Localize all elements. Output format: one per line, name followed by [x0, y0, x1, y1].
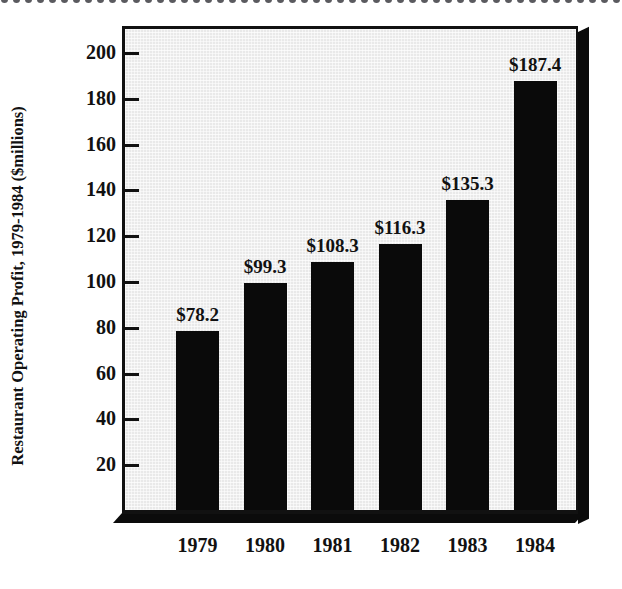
y-axis-title: Restaurant Operating Profit, 1979-1984 (…: [8, 36, 28, 536]
y-axis-tick-mark: [125, 235, 139, 238]
border-dot: [25, 0, 32, 3]
border-dot: [397, 0, 404, 3]
border-dot: [445, 0, 452, 3]
y-axis-tick-label: 180: [56, 88, 116, 108]
y-axis-tick-mark: [125, 281, 139, 284]
bar: [446, 200, 489, 510]
y-axis-tick-mark: [125, 98, 139, 101]
border-dot: [577, 0, 584, 3]
border-dot: [37, 0, 44, 3]
border-dot: [313, 0, 320, 3]
plot-area: [122, 26, 578, 514]
bar: [176, 331, 219, 510]
y-axis-tick-mark: [125, 144, 139, 147]
border-dot: [193, 0, 200, 3]
y-axis-tick-label: 60: [56, 363, 116, 383]
dotted-border: [0, 0, 622, 8]
y-axis-tick-mark: [125, 373, 139, 376]
y-axis-tick-label: 200: [56, 42, 116, 62]
border-dot: [421, 0, 428, 3]
border-dot: [109, 0, 116, 3]
border-dot: [169, 0, 176, 3]
border-dot: [13, 0, 20, 3]
border-dot: [469, 0, 476, 3]
border-dot: [505, 0, 512, 3]
border-dot: [337, 0, 344, 3]
border-dot: [349, 0, 356, 3]
border-dot: [433, 0, 440, 3]
bar-value-label: $116.3: [345, 218, 455, 237]
y-axis-tick-label: 160: [56, 134, 116, 154]
bar-chart-figure: Restaurant Operating Profit, 1979-1984 (…: [0, 14, 622, 589]
border-dot: [241, 0, 248, 3]
border-dot: [373, 0, 380, 3]
plot-frame-right-3d-edge: [578, 27, 589, 524]
border-dot: [97, 0, 104, 3]
y-axis-tick-mark: [125, 52, 139, 55]
border-dot: [145, 0, 152, 3]
border-dot: [589, 0, 596, 3]
y-axis-tick-label: 140: [56, 179, 116, 199]
border-dot: [49, 0, 56, 3]
x-axis-tick-label: 1984: [480, 535, 590, 555]
bar-value-label: $78.2: [143, 305, 253, 324]
bar-value-label: $135.3: [413, 174, 523, 193]
border-dot: [529, 0, 536, 3]
border-dot: [289, 0, 296, 3]
border-dot: [325, 0, 332, 3]
border-dot: [361, 0, 368, 3]
border-dot: [385, 0, 392, 3]
plot-frame-bottom-3d-edge: [113, 513, 584, 523]
border-dot: [253, 0, 260, 3]
border-dot: [85, 0, 92, 3]
y-axis-tick-mark: [125, 327, 139, 330]
bar: [311, 262, 354, 510]
y-axis-tick-mark: [125, 418, 139, 421]
border-dot: [409, 0, 416, 3]
bar-value-label: $108.3: [278, 236, 388, 255]
border-dot: [217, 0, 224, 3]
border-dot: [541, 0, 548, 3]
border-dot: [457, 0, 464, 3]
y-axis-tick-label: 120: [56, 225, 116, 245]
bar: [514, 81, 557, 510]
bar-value-label: $99.3: [210, 257, 320, 276]
border-dot: [229, 0, 236, 3]
border-dot: [277, 0, 284, 3]
border-dot: [61, 0, 68, 3]
border-dot: [565, 0, 572, 3]
border-dot: [517, 0, 524, 3]
border-dot: [481, 0, 488, 3]
y-axis-tick-label: 80: [56, 317, 116, 337]
border-dot: [133, 0, 140, 3]
y-axis-tick-label: 40: [56, 408, 116, 428]
border-dot: [601, 0, 608, 3]
border-dot: [181, 0, 188, 3]
border-dot: [157, 0, 164, 3]
border-dot: [265, 0, 272, 3]
border-dot: [553, 0, 560, 3]
border-dot: [493, 0, 500, 3]
border-dot: [301, 0, 308, 3]
bar: [379, 244, 422, 510]
y-axis-tick-mark: [125, 464, 139, 467]
border-dot: [121, 0, 128, 3]
y-axis-tick-label: 20: [56, 454, 116, 474]
y-axis-tick-label: 100: [56, 271, 116, 291]
border-dot: [205, 0, 212, 3]
border-dot: [1, 0, 8, 3]
y-axis-tick-mark: [125, 189, 139, 192]
border-dot: [613, 0, 620, 3]
bar-value-label: $187.4: [480, 55, 590, 74]
border-dot: [73, 0, 80, 3]
